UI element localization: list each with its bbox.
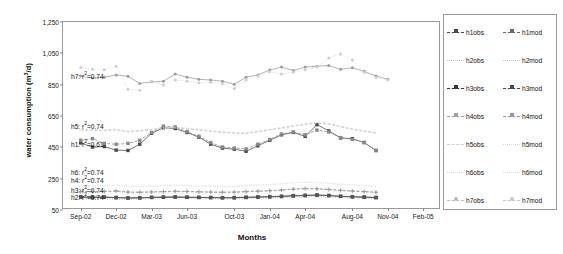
legend-item-h7mod[interactable]: h7mod: [500, 196, 556, 205]
x-axis-tick-label: Mar-03: [141, 213, 162, 220]
legend-row: h3obsh3mod: [444, 74, 556, 102]
data-point: [374, 149, 377, 152]
data-point: [233, 196, 236, 199]
legend-swatch-icon: [503, 196, 520, 205]
data-point: [220, 190, 224, 194]
data-point: [209, 81, 212, 84]
data-point: [339, 68, 342, 71]
data-point: [351, 66, 354, 69]
data-point: [315, 187, 319, 191]
data-point: [303, 133, 306, 136]
data-point: [351, 195, 354, 198]
y-axis-tick-mark: [60, 116, 63, 117]
legend-item-h4obs[interactable]: h4obs: [444, 112, 500, 121]
x-axis-tick-mark: [423, 208, 424, 211]
legend-item-h2mod[interactable]: h2mod: [500, 56, 556, 65]
data-point: [339, 188, 343, 192]
data-point: [280, 188, 284, 192]
data-point: [233, 87, 236, 90]
data-point: [268, 189, 272, 193]
data-point: [150, 190, 154, 194]
data-point: [162, 195, 165, 198]
series-h5mod: [81, 123, 376, 133]
series-h4obs: [79, 187, 378, 195]
data-point: [315, 193, 318, 196]
legend-label: h3mod: [522, 85, 542, 92]
legend-swatch-icon: [503, 84, 520, 93]
legend-label: h4mod: [522, 113, 542, 120]
legend-row: h4obsh4mod: [444, 102, 556, 130]
legend-label: h7mod: [522, 197, 542, 204]
x-axis-title: Months: [62, 233, 442, 242]
legend-item-h2obs[interactable]: h2obs: [444, 56, 500, 65]
data-point: [245, 78, 248, 81]
data-point: [280, 66, 283, 69]
x-axis-tick-label: Sep-02: [70, 213, 91, 220]
series-h1obs: [79, 123, 378, 153]
legend-swatch-icon: [447, 112, 464, 121]
data-point: [150, 196, 153, 199]
x-axis-tick-mark: [352, 208, 353, 211]
data-point: [374, 196, 377, 199]
data-point: [174, 73, 177, 76]
legend-item-h7obs[interactable]: h7obs: [444, 196, 500, 205]
data-point: [327, 57, 330, 60]
legend-item-h3mod[interactable]: h3mod: [500, 84, 556, 93]
legend-label: h3obs: [466, 85, 484, 92]
data-point: [162, 80, 165, 83]
legend-item-h5obs[interactable]: h5obs: [444, 140, 500, 149]
series-line: [81, 66, 388, 85]
legend-item-h1mod[interactable]: h1mod: [500, 28, 556, 37]
legend-item-h3obs[interactable]: h3obs: [444, 84, 500, 93]
data-point: [280, 132, 283, 135]
legend-swatch-icon: [503, 56, 520, 65]
data-point: [209, 141, 212, 144]
legend-label: h6mod: [522, 169, 542, 176]
y-axis-tick-label: 1,050: [19, 50, 59, 57]
legend-label: h6obs: [466, 169, 484, 176]
legend-swatch-icon: [503, 28, 520, 37]
series-h3obs: [79, 193, 378, 199]
legend-row: h7obsh7mod: [444, 186, 556, 214]
legend-item-h1obs[interactable]: h1obs: [444, 28, 500, 37]
data-point: [197, 81, 200, 84]
annotation-h2: h2: r2=0.74: [71, 191, 104, 200]
data-point: [174, 78, 177, 81]
data-point: [114, 189, 118, 193]
data-point: [339, 195, 342, 198]
annotation-h7: h7: r2=0.74: [71, 70, 104, 79]
x-axis-tick-label: Feb-05: [413, 213, 434, 220]
data-point: [162, 124, 165, 127]
data-point: [126, 142, 129, 145]
data-point: [233, 83, 236, 86]
legend-swatch-icon: [447, 196, 464, 205]
legend-swatch-icon: [447, 140, 464, 149]
data-point: [197, 196, 200, 199]
data-point: [327, 194, 330, 197]
data-point: [115, 73, 118, 76]
data-point: [304, 66, 307, 69]
data-point: [351, 58, 354, 61]
chart-root: water consumption (m3/d) 502504506508501…: [0, 0, 563, 254]
x-axis-tick-mark: [116, 208, 117, 211]
series-line: [81, 182, 376, 186]
y-axis-tick-label: 1,250: [19, 19, 59, 26]
legend-item-h4mod[interactable]: h4mod: [500, 112, 556, 121]
data-point: [244, 195, 247, 198]
x-axis-tick-label: Nov-04: [377, 213, 398, 220]
data-point: [362, 190, 366, 194]
data-point: [221, 145, 224, 148]
chart-legend: h1obsh1modh2obsh2modh3obsh3modh4obsh4mod…: [443, 14, 557, 210]
legend-item-h5mod[interactable]: h5mod: [500, 140, 556, 149]
plot-svg: [63, 22, 441, 210]
data-point: [114, 148, 117, 151]
data-point: [209, 190, 213, 194]
data-point: [327, 187, 331, 191]
data-point: [126, 88, 129, 91]
data-point: [339, 52, 342, 55]
legend-item-h6obs[interactable]: h6obs: [444, 168, 500, 177]
x-axis-tick-mark: [81, 208, 82, 211]
legend-item-h6mod[interactable]: h6mod: [500, 168, 556, 177]
data-point: [162, 83, 165, 86]
data-point: [256, 195, 259, 198]
